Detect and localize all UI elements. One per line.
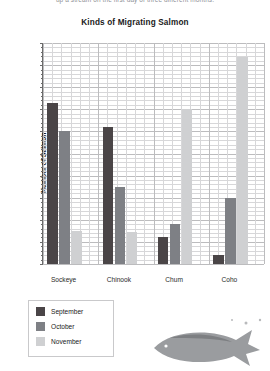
chart-area: Number of Salmon 1,000900800700600500400… [0,0,270,300]
y-axis-tick-mark-minor [41,193,43,194]
x-axis-group-label: Chinook [107,276,131,283]
x-axis-group-label: Chum [165,276,183,283]
y-axis-tick-mark-minor [41,114,43,115]
y-axis-tick-mark [40,131,43,132]
gridline-vertical [144,43,145,264]
bar-chinook-september [103,127,114,264]
y-axis-tick-mark [40,65,43,66]
gridline-vertical [209,43,210,264]
y-axis-tick-mark-minor [41,100,43,101]
y-axis-tick-mark [40,154,43,155]
legend-label: November [51,338,81,345]
y-axis-tick-mark-minor [41,92,43,93]
y-axis-tick-mark-minor [41,229,43,230]
y-axis-tick-mark-minor [41,189,43,190]
legend-item-october: October [36,322,113,331]
y-axis-tick-mark [40,109,43,110]
y-axis-tick-mark-minor [41,118,43,119]
legend-label: September [51,308,83,315]
y-axis-tick-mark-minor [41,162,43,163]
y-axis-tick-mark-minor [41,233,43,234]
gridline-vertical [200,43,201,264]
y-axis-tick-mark [40,220,43,221]
bar-sockeye-november [71,231,82,264]
y-axis-tick-mark-minor [41,96,43,97]
y-axis-tick-mark-minor [41,78,43,79]
gridline-horizontal [43,264,264,265]
y-axis-tick-mark-minor [41,140,43,141]
gridline-vertical [255,43,256,264]
bar-chum-september [158,237,169,264]
y-axis-tick-mark-minor [41,136,43,137]
gridline-vertical [163,43,164,264]
bar-chum-october [170,224,181,264]
y-axis-tick-mark [40,242,43,243]
legend-item-september: September [36,307,113,316]
salmon-illustration-icon [140,318,268,368]
x-axis-group-label: Coho [221,276,237,283]
y-axis-tick-mark-minor [41,127,43,128]
bar-chum-november [182,109,193,264]
y-axis-tick-mark-minor [41,246,43,247]
legend-item-november: November [36,337,113,346]
y-axis-tick-mark-minor [41,61,43,62]
chart-legend: September October November [28,300,114,357]
gridline-vertical [126,43,127,264]
plot-region: Number of Salmon 1,000900800700600500400… [42,43,264,265]
gridline-vertical [98,43,99,264]
y-axis-tick-mark-minor [41,237,43,238]
y-axis-tick-mark-minor [41,171,43,172]
y-axis-tick-mark-minor [41,202,43,203]
gridline-vertical [264,43,265,264]
y-axis-tick-mark-minor [41,74,43,75]
y-axis-tick-mark-minor [41,83,43,84]
y-axis-tick-mark-minor [41,70,43,71]
y-axis-tick-mark-minor [41,123,43,124]
y-axis-tick-mark-minor [41,260,43,261]
bar-coho-october [225,198,236,264]
y-axis-tick-mark [40,176,43,177]
gridline-vertical [89,43,90,264]
legend-swatch-icon [36,307,45,316]
y-axis-tick-mark-minor [41,56,43,57]
y-axis-tick-mark-minor [41,255,43,256]
y-axis-tick-mark-minor [41,211,43,212]
gridline-vertical [154,43,155,264]
y-axis-tick-mark-minor [41,207,43,208]
y-axis-tick-mark-minor [41,47,43,48]
y-axis-tick-mark-minor [41,145,43,146]
y-axis-tick-mark-minor [41,224,43,225]
gridline-vertical [218,43,219,264]
y-axis-tick-mark-minor [41,215,43,216]
y-axis-tick-mark-minor [41,158,43,159]
y-axis-tick-mark-minor [41,105,43,106]
gridline-vertical [43,43,44,264]
bar-chinook-november [127,232,138,264]
y-axis-tick-mark-minor [41,180,43,181]
x-axis-group-label: Sockeye [51,276,76,283]
bar-coho-september [213,255,224,264]
y-axis-tick-mark [40,198,43,199]
bar-sockeye-september [47,103,58,264]
bar-coho-november [237,57,248,264]
y-axis-tick-mark [40,43,43,44]
y-axis-tick-mark-minor [41,167,43,168]
y-axis-tick-mark [40,87,43,88]
y-axis-tick-mark-minor [41,52,43,53]
bar-sockeye-october [59,131,70,264]
legend-swatch-icon [36,322,45,331]
legend-label: October [51,323,74,330]
bar-chinook-october [115,187,126,264]
legend-swatch-icon [36,337,45,346]
y-axis-tick-mark [40,264,43,265]
y-axis-tick-mark-minor [41,251,43,252]
y-axis-tick-mark-minor [41,149,43,150]
gridline-vertical [135,43,136,264]
y-axis-tick-mark-minor [41,184,43,185]
